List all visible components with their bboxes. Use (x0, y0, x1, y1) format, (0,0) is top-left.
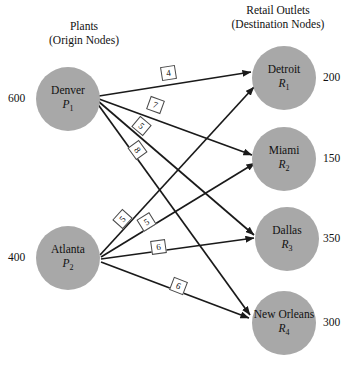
node-circle-neworleans (252, 291, 316, 355)
node-circle-dallas (255, 207, 319, 271)
network-graph (0, 0, 352, 367)
demand-miami: 150 (323, 152, 340, 164)
transportation-network-diagram: Plants (Origin Nodes) Retail Outlets (De… (0, 0, 352, 367)
node-circle-miami (252, 127, 316, 191)
node-circle-atlanta (36, 226, 100, 290)
node-circle-denver (36, 67, 100, 131)
demand-detroit: 200 (323, 71, 340, 83)
demand-neworleans: 300 (323, 316, 340, 328)
edge-atlanta-detroit (100, 87, 254, 255)
supply-atlanta: 400 (8, 251, 25, 263)
node-circle-detroit (252, 46, 316, 110)
supply-denver: 600 (8, 92, 25, 104)
edge-atlanta-dallas (101, 238, 254, 259)
demand-dallas: 350 (323, 232, 340, 244)
edge-denver-miami (99, 99, 252, 155)
node-circle-group (36, 46, 319, 355)
edge-cost-atlanta-dallas: 6 (150, 239, 167, 255)
edge-cost-denver-detroit: 4 (160, 65, 177, 81)
